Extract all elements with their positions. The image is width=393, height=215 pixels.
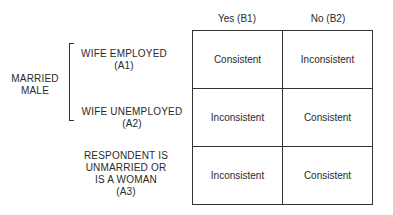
cell-a3-b2: Consistent	[283, 147, 373, 205]
cell-a1-b2: Inconsistent	[283, 31, 373, 89]
matrix-row-a2: Inconsistent Consistent	[193, 89, 373, 147]
row-label-a2-line2: (A2)	[76, 118, 188, 130]
matrix-row-a3: Inconsistent Consistent	[193, 147, 373, 205]
group-label-line2: MALE	[4, 85, 66, 97]
group-label-married-male: MARRIED MALE	[4, 73, 66, 97]
cell-a2-b2: Consistent	[283, 89, 373, 147]
row-label-a3-line2: UNMARRIED OR	[76, 162, 176, 174]
row-label-a2: WIFE UNEMPLOYED (A2)	[76, 106, 188, 130]
cell-a2-b1: Inconsistent	[193, 89, 283, 147]
row-label-a3-line3: IS A WOMAN	[76, 174, 176, 186]
cell-a3-b1: Inconsistent	[193, 147, 283, 205]
group-bracket	[69, 43, 74, 121]
row-label-a3: RESPONDENT IS UNMARRIED OR IS A WOMAN (A…	[76, 150, 176, 198]
row-label-a1: WIFE EMPLOYED (A1)	[76, 48, 172, 72]
cell-a1-b1: Consistent	[193, 31, 283, 89]
row-label-a2-line1: WIFE UNEMPLOYED	[76, 106, 188, 118]
consistency-matrix: Consistent Inconsistent Inconsistent Con…	[192, 30, 373, 205]
row-label-a3-line4: (A3)	[76, 186, 176, 198]
row-label-a1-line2: (A1)	[76, 60, 172, 72]
column-header-b2: No (B2)	[283, 13, 373, 24]
column-header-b1: Yes (B1)	[192, 13, 282, 24]
matrix-row-a1: Consistent Inconsistent	[193, 31, 373, 89]
row-label-a3-line1: RESPONDENT IS	[76, 150, 176, 162]
group-label-line1: MARRIED	[4, 73, 66, 85]
row-label-a1-line1: WIFE EMPLOYED	[76, 48, 172, 60]
